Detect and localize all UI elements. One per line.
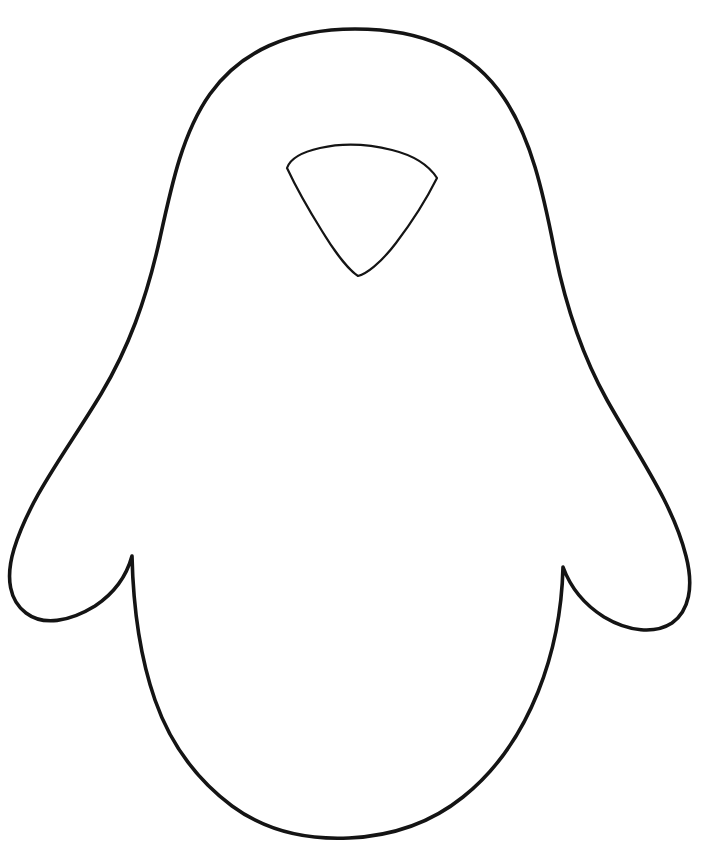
penguin-illustration — [0, 0, 708, 841]
coloring-page-canvas: Penguin outline drawing — [0, 0, 708, 841]
